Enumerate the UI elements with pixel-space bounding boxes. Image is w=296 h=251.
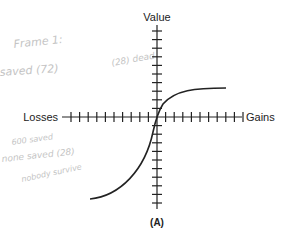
handwritten-notes: Frame 1: saved (72) (28) dead 600 saved … <box>0 33 156 184</box>
note-nobody-survive: nobody survive <box>21 162 83 184</box>
note-dead: (28) dead <box>111 50 156 68</box>
gains-label: Gains <box>246 111 275 123</box>
vertical-axis-label: Value <box>143 11 170 23</box>
note-none-saved: none saved (28) <box>1 146 75 164</box>
note-saved: saved (72) <box>0 62 59 79</box>
value-function-diagram: Frame 1: saved (72) (28) dead 600 saved … <box>0 0 296 251</box>
panel-label: (A) <box>150 217 164 228</box>
note-frame: Frame 1: <box>13 33 63 51</box>
note-600-saved: 600 saved <box>11 132 54 147</box>
value-curve <box>90 88 226 199</box>
losses-label: Losses <box>23 111 58 123</box>
